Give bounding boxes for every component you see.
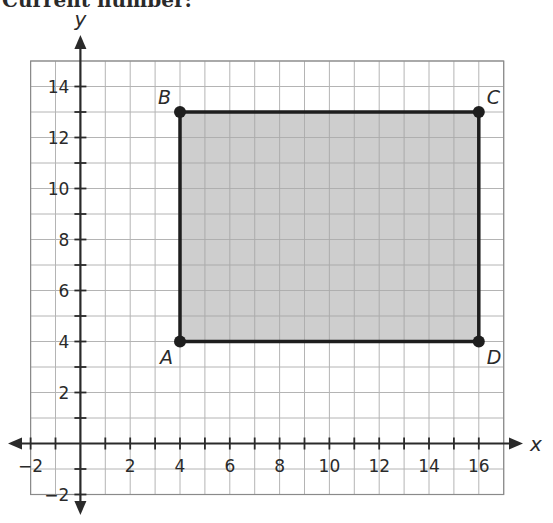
point-d — [473, 336, 485, 348]
point-label-c: C — [487, 86, 501, 108]
x-tick-label: 12 — [368, 456, 390, 476]
point-c — [473, 106, 485, 118]
x-tick-label: 10 — [319, 456, 341, 476]
x-axis-left-arrow-icon — [8, 438, 22, 450]
x-axis-right-arrow-icon — [509, 438, 523, 450]
x-tick-label: 16 — [468, 456, 490, 476]
rectangle-abcd — [180, 112, 479, 342]
y-axis-label: y — [73, 7, 87, 31]
x-tick-label: −2 — [18, 456, 43, 476]
x-tick-label: 4 — [175, 456, 186, 476]
x-tick-label: 14 — [418, 456, 440, 476]
y-tick-label: 14 — [48, 77, 70, 97]
x-tick-label: 8 — [274, 456, 285, 476]
point-label-d: D — [487, 346, 502, 368]
y-tick-label: 12 — [48, 128, 70, 148]
x-axis-label: x — [529, 432, 542, 456]
y-tick-label: 4 — [59, 332, 70, 352]
point-label-b: B — [158, 86, 171, 108]
y-tick-label: 2 — [59, 383, 70, 403]
coordinate-plane: xy −2246810121416−22468101214 ABCD — [0, 0, 553, 523]
y-tick-label: −2 — [44, 485, 69, 505]
x-tick-label: 6 — [224, 456, 235, 476]
y-tick-label: 10 — [48, 179, 70, 199]
y-axis-up-arrow-icon — [74, 35, 86, 49]
y-tick-label: 8 — [59, 230, 70, 250]
point-a — [174, 336, 186, 348]
x-tick-label: 2 — [125, 456, 136, 476]
y-axis-down-arrow-icon — [74, 501, 86, 515]
point-label-a: A — [158, 346, 173, 368]
point-b — [174, 106, 186, 118]
y-tick-label: 6 — [59, 281, 70, 301]
